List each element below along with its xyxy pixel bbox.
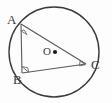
vertex-label-A: A bbox=[7, 13, 16, 26]
center-dot bbox=[53, 50, 57, 54]
geometry-canvas bbox=[0, 0, 112, 103]
vertex-label-C: C bbox=[91, 58, 100, 71]
side-BC bbox=[22, 64, 86, 73]
center-label-O: O bbox=[43, 46, 51, 57]
angle-marker-B bbox=[22, 67, 29, 73]
angle-marker-A bbox=[21, 30, 27, 35]
vertex-label-B: B bbox=[13, 73, 22, 86]
side-AC bbox=[21, 24, 86, 64]
geometry-figure: A B C O bbox=[0, 0, 112, 103]
